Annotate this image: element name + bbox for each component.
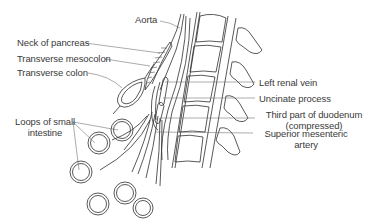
label-superior-mesenteric-line1: Superior mesenteric [257, 128, 355, 139]
small-intestine-loops [70, 119, 153, 218]
label-neck-of-pancreas: Neck of pancreas [17, 37, 89, 48]
label-aorta: Aorta [135, 14, 157, 25]
vertebral-bodies [175, 14, 226, 162]
vertebral-anterior-line [172, 12, 197, 168]
aorta [152, 14, 190, 160]
anatomy-diagram: Aorta Neck of pancreas Transverse mesoco… [0, 0, 368, 223]
label-transverse-mesocolon: Transverse mesocolon [17, 53, 111, 64]
label-third-part-duodenum-line1: Third part of duodenum [257, 109, 368, 120]
label-loops-small-intestine-line2: intestine [12, 127, 78, 138]
label-left-renal-vein: Left renal vein [259, 77, 317, 88]
label-loops-small-intestine: Loops of small intestine [12, 116, 78, 138]
transverse-colon [113, 64, 154, 114]
label-transverse-colon: Transverse colon [17, 67, 88, 78]
label-loops-small-intestine-line1: Loops of small [12, 116, 78, 127]
spinal-canal [202, 16, 236, 168]
label-superior-mesenteric-line2: artery [257, 139, 355, 150]
label-uncinate-process: Uncinate process [259, 93, 331, 104]
label-superior-mesenteric-artery: Superior mesenteric artery [257, 128, 355, 150]
